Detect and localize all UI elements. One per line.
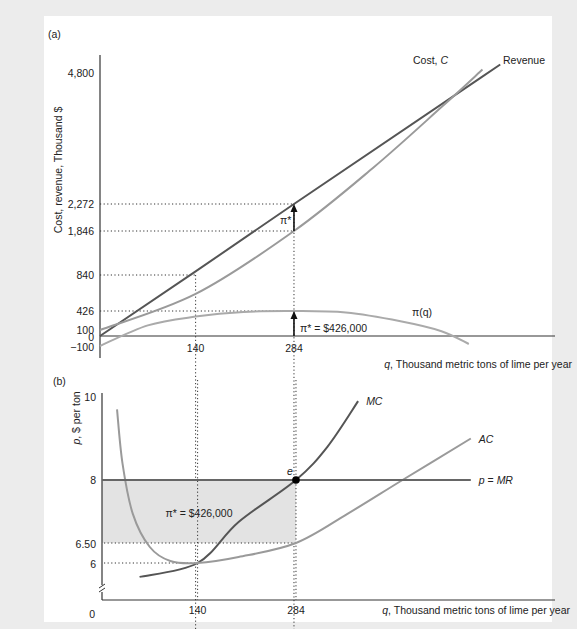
panel-a-revenue-label: Revenue (503, 54, 545, 66)
panel-b-y-text: , $ per ton (70, 391, 82, 438)
panel-a-profit-value-label: π* = $426,000 (300, 322, 367, 334)
panel-b-mr-label: p = MR (478, 474, 514, 486)
panel-b-y-tick-label: 6 (90, 558, 96, 570)
panel-a-y-tick-label: −100 (70, 341, 94, 353)
panel-b-equilibrium-point (292, 476, 300, 484)
panel-a-y-tick-label: 4,800 (68, 67, 94, 79)
panel-b-ac-label: AC (478, 433, 494, 445)
panel-a-profit-label: π(q) (412, 306, 432, 318)
panel-b-x-text: , Thousand metric tons of lime per year (388, 604, 570, 616)
panel-a-cost-curve (100, 70, 482, 330)
panel-b-x-tick-label: 284 (287, 604, 305, 616)
panel-b-mc-label: MC (366, 395, 383, 407)
panel-a-profit-arrow-lower-head (290, 311, 297, 319)
panel-a-cost-label: Cost, C (413, 54, 448, 66)
panel-a-label: (a) (48, 28, 61, 40)
panel-b-x-tick-label: 140 (189, 604, 207, 616)
panel-b-x-axis-label: q, Thousand metric tons of lime per year (382, 604, 570, 616)
panel-b-equilibrium-label: e (287, 465, 293, 477)
panel-a-x-text: , Thousand metric tons of lime per year (390, 358, 572, 370)
panel-a-y-tick-label: 1,846 (68, 225, 94, 237)
panel-b-plot: 1086.5060140284MCACp = MRπ* = $426,000e (76, 380, 555, 620)
panel-b-y-tick-label: 8 (90, 474, 96, 486)
panel-a-y-tick-label: 426 (76, 305, 94, 317)
panel-b-y-tick-label: 10 (84, 391, 96, 403)
panel-a-y-axis-label: Cost, revenue, Thousand $ (52, 107, 64, 234)
panel-a-revenue-curve (100, 64, 500, 336)
panel-b-profit-label: π* = $426,000 (165, 507, 232, 519)
panel-a-y-tick-label: 2,272 (68, 198, 94, 210)
panel-a-y-tick-label: 840 (76, 269, 94, 281)
panel-a-x-axis-label: q, Thousand metric tons of lime per year (384, 358, 572, 370)
panel-b-y-tick-label: 6.50 (76, 538, 97, 550)
panel-b-y-tick-label: 0 (89, 608, 95, 620)
panel-b-y-axis-label: p, $ per ton (70, 391, 82, 445)
chart-svg: (a) (b) Cost, revenue, Thousand $ q, Tho… (0, 0, 577, 629)
panel-a-pi-star-label: π* (280, 214, 291, 226)
panel-b-axis-break-icon (99, 584, 105, 592)
panel-b-label: (b) (53, 375, 66, 387)
